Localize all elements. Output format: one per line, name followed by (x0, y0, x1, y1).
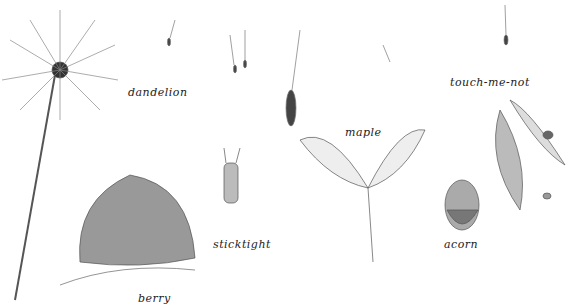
label-acorn: acorn (444, 238, 478, 251)
drawing (0, 0, 579, 305)
label-maple: maple (345, 126, 382, 139)
berry (60, 175, 195, 285)
label-berry: berry (138, 292, 171, 305)
touch-me-not-pods (496, 100, 566, 210)
label-touch-me-not: touch-me-not (450, 76, 530, 89)
maple-seed (300, 130, 425, 262)
dandelion-seeds (168, 5, 509, 126)
sticktight-seed (224, 148, 240, 203)
seed-illustration: dandelion maple touch-me-not sticktight … (0, 0, 579, 305)
acorn (445, 180, 479, 230)
label-dandelion: dandelion (128, 86, 187, 99)
label-sticktight: sticktight (213, 238, 271, 251)
